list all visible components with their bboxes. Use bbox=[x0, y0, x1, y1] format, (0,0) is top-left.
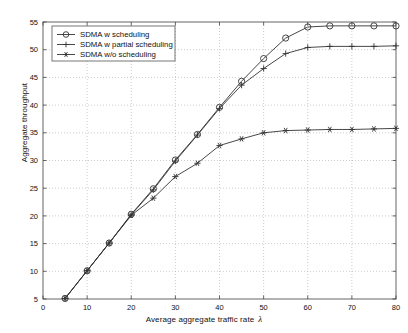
svg-text:35: 35 bbox=[30, 128, 38, 137]
data-series bbox=[62, 23, 399, 302]
svg-text:0: 0 bbox=[41, 303, 45, 312]
figure-container: 51015202530354045505501020304050607080 S… bbox=[0, 0, 408, 333]
svg-text:30: 30 bbox=[171, 303, 179, 312]
legend-item-label-1: SDMA w partial scheduling bbox=[80, 40, 173, 49]
chart-canvas: 51015202530354045505501020304050607080 S… bbox=[0, 0, 408, 333]
svg-text:55: 55 bbox=[30, 18, 38, 27]
lambda-symbol: λ bbox=[254, 314, 262, 324]
svg-text:60: 60 bbox=[304, 303, 312, 312]
svg-text:20: 20 bbox=[127, 303, 135, 312]
svg-text:70: 70 bbox=[348, 303, 356, 312]
grid-lines bbox=[43, 22, 396, 299]
svg-text:10: 10 bbox=[83, 303, 91, 312]
x-axis-title-text: Average aggregate traffic rate bbox=[146, 315, 255, 324]
svg-text:15: 15 bbox=[30, 239, 38, 248]
svg-text:45: 45 bbox=[30, 73, 38, 82]
svg-text:25: 25 bbox=[30, 184, 38, 193]
svg-text:5: 5 bbox=[34, 295, 38, 304]
svg-text:50: 50 bbox=[30, 45, 38, 54]
chart-legend: SDMA w schedulingSDMA w partial scheduli… bbox=[52, 26, 175, 61]
svg-text:50: 50 bbox=[259, 303, 267, 312]
y-axis-title: Aggregate throughput bbox=[20, 63, 29, 183]
svg-text:40: 40 bbox=[215, 303, 223, 312]
svg-text:40: 40 bbox=[30, 101, 38, 110]
svg-text:20: 20 bbox=[30, 212, 38, 221]
svg-text:10: 10 bbox=[30, 267, 38, 276]
axis-tick-labels: 51015202530354045505501020304050607080 bbox=[30, 18, 401, 312]
legend-item-label-0: SDMA w scheduling bbox=[80, 30, 149, 39]
x-axis-title: Average aggregate traffic rateλ bbox=[0, 314, 408, 324]
svg-text:30: 30 bbox=[30, 156, 38, 165]
legend-item-label-2: SDMA w/o scheduling bbox=[80, 50, 156, 59]
svg-text:80: 80 bbox=[392, 303, 400, 312]
